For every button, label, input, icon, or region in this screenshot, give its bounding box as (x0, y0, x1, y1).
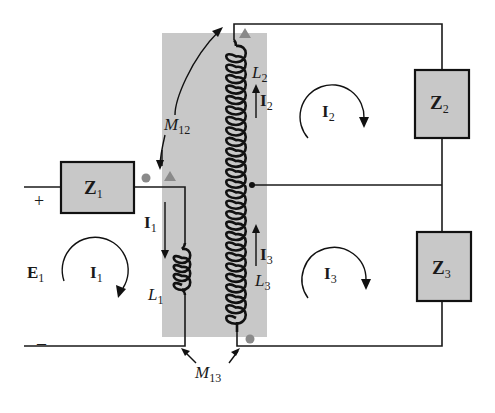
arrowhead-mesh-i2 (359, 117, 369, 128)
label-source-minus: – (37, 334, 46, 352)
label-inductor-l1: L1 (148, 286, 163, 306)
polarity-dot-l3 (246, 335, 255, 344)
label-mesh-i3: I3 (324, 265, 337, 285)
wire-bottom-right (237, 301, 442, 346)
label-source-e1: E1 (27, 264, 44, 284)
label-branch-i1: I1 (144, 214, 157, 234)
label-source-plus: + (34, 192, 44, 210)
polarity-dot-l1 (142, 174, 151, 183)
label-z3: Z3 (432, 258, 451, 280)
label-z1: Z1 (84, 178, 103, 200)
label-branch-i2: I2 (260, 92, 273, 112)
arrowhead-mesh-i1 (116, 285, 126, 298)
label-mutual-m12: M12 (164, 116, 190, 136)
arrowhead-mesh-i3 (361, 279, 371, 290)
label-inductor-l2: L2 (252, 64, 267, 84)
circuit-diagram (0, 0, 495, 413)
label-z2: Z2 (430, 93, 449, 115)
label-inductor-l3: L3 (255, 272, 270, 292)
tap-junction-dot (249, 182, 255, 188)
label-mutual-m13: M13 (195, 364, 221, 384)
label-mesh-i1: I1 (90, 264, 103, 284)
label-branch-i3: I3 (260, 246, 273, 266)
label-mesh-i2: I2 (322, 103, 335, 123)
arrowhead-m13-right (231, 348, 240, 356)
